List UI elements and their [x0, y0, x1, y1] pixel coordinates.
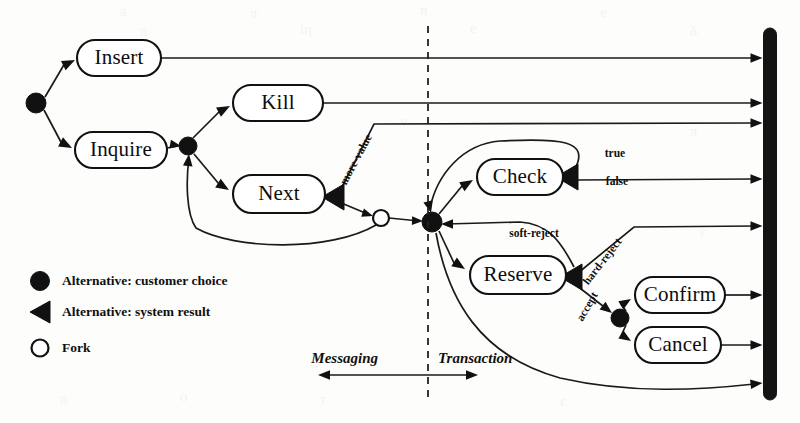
node-insert[interactable]: Insert [77, 40, 161, 76]
arrow-head-icon [751, 98, 763, 108]
filled-triangle-icon [30, 301, 50, 323]
filled-circle-icon [31, 272, 50, 291]
scan-artifact: iη [300, 21, 312, 37]
node-label-kill: Kill [261, 90, 294, 114]
legend-label-fork: Fork [62, 340, 91, 355]
join-bar [764, 28, 777, 400]
node-label-next: Next [258, 181, 300, 205]
arrow-head-icon [215, 179, 229, 190]
fork-point-fork-next [373, 210, 389, 226]
edge-choice-to-kill [193, 111, 220, 138]
legend-item-system-result: Alternative: system result [30, 301, 211, 323]
edge-label-accept: accept [574, 290, 601, 324]
edge-label-false: false [606, 175, 628, 187]
arrow-head-icon [751, 53, 763, 63]
edge-choice-to-next [194, 154, 219, 184]
arrow-head-icon [216, 106, 230, 117]
choice-point-txn-hub [422, 212, 442, 232]
legend-item-customer-choice: Alternative: customer choice [31, 272, 228, 291]
node-label-check: Check [493, 164, 548, 188]
arrow-head-left-icon [318, 370, 330, 380]
node-cancel[interactable]: Cancel [635, 327, 721, 363]
node-label-cancel: Cancel [648, 332, 708, 356]
edge-start-to-insert [45, 63, 65, 97]
arrow-head-icon [750, 379, 762, 389]
phase-label-messaging: Messaging [310, 350, 378, 366]
scan-artifact: ε [700, 223, 706, 239]
scan-artifact: e [600, 4, 607, 20]
node-label-inquire: Inquire [90, 137, 152, 161]
edge-hub-to-check [439, 186, 462, 214]
arrow-head-icon [183, 154, 193, 166]
scan-artifact: δ [690, 23, 697, 39]
scan-artifact: ο [180, 388, 188, 404]
phase-label-transaction: Transaction [438, 350, 512, 366]
arrow-head-icon [412, 216, 423, 225]
scan-artifact: n [420, 2, 428, 18]
phase-axis-layer: MessagingTransaction [310, 350, 512, 379]
legend-label-system-result: Alternative: system result [62, 304, 211, 319]
scan-artifact: π [60, 391, 68, 407]
edge-label-soft-reject: soft-reject [509, 227, 559, 240]
arrow-head-icon [751, 221, 763, 231]
arrow-head-icon [751, 290, 763, 300]
legend-item-fork: Fork [32, 340, 91, 357]
node-reserve[interactable]: Reserve [470, 256, 566, 294]
arrow-head-icon [600, 302, 612, 313]
scan-artifact: π [140, 23, 148, 39]
node-check[interactable]: Check [477, 159, 563, 195]
arrow-head-icon [451, 258, 465, 269]
choice-point-start [26, 93, 46, 113]
edge-labels-layer: no-more-valuetruefalsesoft-rejecthard-re… [330, 132, 628, 323]
node-inquire[interactable]: Inquire [75, 132, 167, 168]
scan-artifact: ν [400, 113, 407, 129]
node-next[interactable]: Next [233, 175, 325, 213]
scan-artifact: a [120, 3, 127, 19]
arrow-head-icon [61, 60, 75, 70]
legend-layer: Alternative: customer choiceAlternative:… [30, 272, 227, 357]
edge-label-hard-reject: hard-reject [580, 236, 624, 288]
scan-artifact: τ [320, 391, 326, 407]
arrow-head-icon [751, 118, 763, 128]
arrow-head-icon [441, 219, 453, 229]
node-label-insert: Insert [94, 45, 143, 69]
legend-label-customer-choice: Alternative: customer choice [62, 273, 227, 288]
diagram-svg: aπneπiηeδπεnοτεπν no-more-valuetruefalse… [0, 0, 800, 423]
scan-artifact: π [690, 123, 698, 139]
arrow-head-right-icon [466, 370, 478, 380]
edge-label-true: true [605, 147, 625, 159]
arrow-head-icon [751, 340, 763, 350]
choice-point-accept-choice [611, 309, 629, 327]
scan-artifact: π [250, 5, 258, 21]
arrow-head-icon [751, 174, 763, 184]
hollow-circle-icon [32, 340, 49, 357]
edge-start-to-inquire [44, 110, 62, 144]
node-label-confirm: Confirm [644, 282, 717, 306]
scan-artifact: ε [560, 393, 566, 409]
arrow-head-icon [459, 180, 473, 191]
choice-point-inquire-fork [179, 137, 197, 155]
activity-diagram-canvas: aπneπiηeδπεnοτεπν no-more-valuetruefalse… [0, 0, 800, 423]
arrow-head-icon [361, 208, 373, 216]
edge-check-false-to-join [575, 179, 756, 180]
scan-artifact: e [470, 20, 477, 36]
node-label-reserve: Reserve [483, 262, 552, 286]
node-confirm[interactable]: Confirm [635, 277, 725, 313]
node-kill[interactable]: Kill [233, 85, 323, 121]
arrow-head-icon [618, 330, 631, 341]
